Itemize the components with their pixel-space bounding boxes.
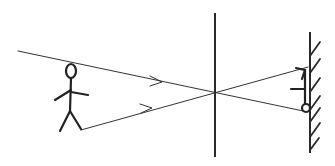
ray-from-head xyxy=(18,51,308,112)
figure-left-leg xyxy=(60,111,70,131)
object-stick-figure xyxy=(55,64,88,131)
figure-right-leg xyxy=(70,111,81,129)
figure-body xyxy=(70,78,71,111)
screen-hatch xyxy=(310,96,320,110)
image-head xyxy=(302,104,310,112)
projection-screen xyxy=(310,32,320,153)
ray-from-head-arrow-icon xyxy=(150,76,162,86)
diagram-canvas xyxy=(0,0,335,166)
ray-from-foot xyxy=(81,67,308,130)
screen-hatch xyxy=(310,59,320,73)
inverted-image-figure xyxy=(291,68,310,112)
figure-left-arm xyxy=(55,90,71,100)
screen-hatch xyxy=(310,42,320,56)
figure-right-arm xyxy=(71,92,88,95)
figure-head xyxy=(66,64,76,78)
screen-hatch xyxy=(310,138,319,150)
pinhole-diagram xyxy=(0,0,335,166)
screen-hatch xyxy=(310,108,320,122)
screen-hatch xyxy=(310,123,320,137)
screen-hatch xyxy=(310,78,320,92)
light-rays xyxy=(18,51,308,130)
